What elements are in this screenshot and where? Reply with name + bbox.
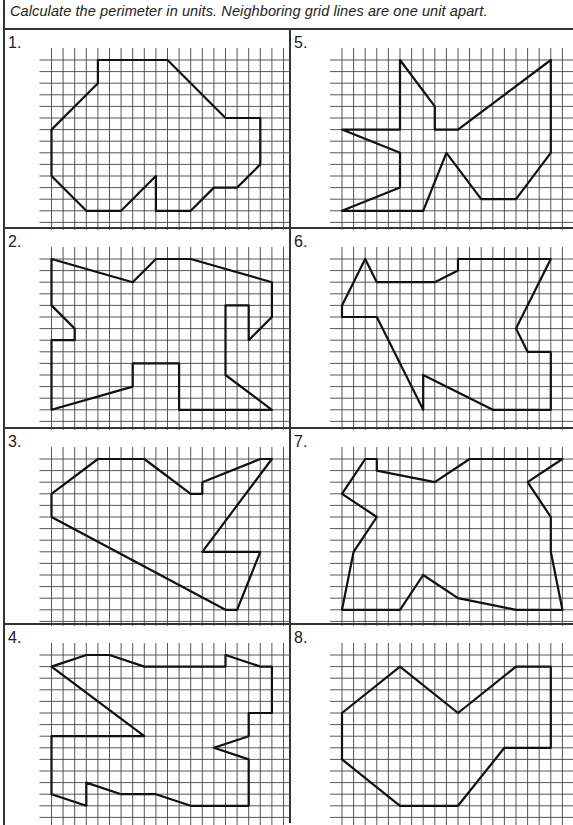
polygon-shape: [52, 655, 272, 806]
polygon-shape: [342, 459, 562, 610]
grid-figure: [289, 30, 573, 230]
problem-4-panel: 4.: [3, 623, 291, 823]
polygon-shape: [52, 259, 272, 410]
problem-7-panel: 7.: [289, 427, 573, 624]
problem-8-panel: 8.: [289, 623, 573, 823]
grid-figure: [289, 229, 573, 430]
grid-figure: [3, 30, 291, 230]
grid-figure: [3, 625, 291, 825]
problem-2-panel: 2.: [3, 227, 291, 428]
problem-5-panel: 5.: [289, 28, 573, 228]
grid-figure: [289, 429, 573, 626]
polygon-shape: [52, 459, 272, 610]
problem-3-panel: 3.: [3, 427, 291, 624]
grid-figure: [3, 229, 291, 430]
instructions-text: Calculate the perimeter in units. Neighb…: [10, 3, 488, 19]
worksheet: 1. 2. 3. 4. 5. 6. 7. 8.: [3, 28, 573, 823]
grid-figure: [289, 625, 573, 825]
problem-6-panel: 6.: [289, 227, 573, 428]
grid-figure: [3, 429, 291, 626]
problem-1-panel: 1.: [3, 28, 291, 228]
